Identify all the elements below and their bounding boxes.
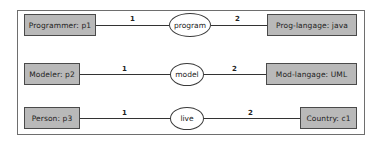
instance-label: Person: p3: [32, 114, 73, 123]
association-label: program: [174, 21, 206, 30]
multiplicity-right-2: 2: [232, 65, 237, 73]
multiplicity-right-3: 2: [248, 109, 253, 117]
instance-label: Mod-langage: UML: [276, 70, 347, 79]
multiplicity-right-1: 2: [235, 15, 240, 23]
instance-label: Country: c1: [306, 114, 350, 123]
link-line-right-2: [204, 74, 266, 75]
instance-box-mod-langage[interactable]: Mod-langage: UML: [266, 63, 357, 85]
association-label: model: [175, 70, 198, 79]
association-ellipse-live[interactable]: live: [170, 107, 204, 130]
instance-box-person[interactable]: Person: p3: [24, 107, 80, 129]
link-line-right-3: [204, 118, 300, 119]
instance-label: Modeler: p2: [29, 70, 75, 79]
link-line-left-2: [80, 74, 170, 75]
multiplicity-left-3: 1: [122, 109, 127, 117]
association-ellipse-model[interactable]: model: [170, 63, 204, 86]
instance-label: Prog-langage: java: [276, 21, 348, 30]
association-ellipse-program[interactable]: program: [169, 13, 211, 37]
instance-box-country[interactable]: Country: c1: [300, 107, 357, 129]
link-line-left-1: [96, 25, 169, 26]
instance-box-programmer[interactable]: Programmer: p1: [24, 14, 96, 36]
multiplicity-left-2: 1: [122, 65, 127, 73]
instance-box-prog-langage[interactable]: Prog-langage: java: [267, 14, 357, 36]
instance-box-modeler[interactable]: Modeler: p2: [24, 63, 80, 85]
link-line-left-3: [80, 118, 170, 119]
link-line-right-1: [211, 25, 267, 26]
multiplicity-left-1: 1: [130, 15, 135, 23]
association-label: live: [180, 114, 193, 123]
instance-label: Programmer: p1: [29, 21, 91, 30]
